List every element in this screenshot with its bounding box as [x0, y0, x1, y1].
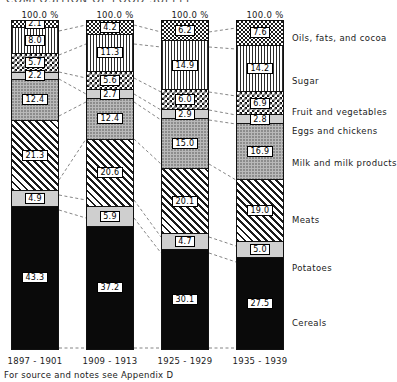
segment-value-label: 7.6 — [250, 27, 270, 38]
legend-label-milk-products: Milk and milk products — [292, 158, 397, 168]
bar-segment: 20.1 — [162, 169, 208, 235]
segment-value-label: 20.1 — [172, 196, 197, 207]
bar-segment: 2.2 — [12, 73, 58, 80]
segment-value-label: 4.9 — [25, 193, 45, 204]
chart-title: COMPOSITION OF FOOD SUPPLY — [6, 0, 192, 2]
segment-value-label: 2.7 — [100, 89, 120, 100]
bar-segment: 37.2 — [87, 227, 133, 349]
segment-value-label: 14.9 — [172, 60, 197, 71]
bar-segment: 43.3 — [12, 207, 58, 349]
bar-segment: 12.4 — [12, 80, 58, 121]
bar-segment: 30.1 — [162, 250, 208, 349]
legend-label-sugar: Sugar — [292, 76, 319, 86]
bar-segment: 7.6 — [237, 21, 283, 46]
bar-column-1909-1913: 4.211.35.62.712.420.65.937.2 — [86, 20, 134, 350]
segment-value-label: 8.0 — [25, 35, 45, 46]
bar-segment: 14.2 — [237, 46, 283, 93]
segment-value-label: 6.0 — [175, 94, 195, 105]
bar-segment: 2.7 — [87, 90, 133, 99]
bar-segment: 2.1 — [12, 21, 58, 28]
xtick-1897-1901: 1897 - 1901 — [0, 356, 71, 366]
bar-column-1925-1929: 6.214.96.02.915.020.14.730.1 — [161, 20, 209, 350]
segment-value-label: 19.0 — [247, 205, 272, 216]
bar-segment: 8.0 — [12, 28, 58, 54]
legend-label-potatoes: Potatoes — [292, 263, 332, 273]
bar-segment: 14.9 — [162, 41, 208, 90]
segment-value-label: 27.5 — [247, 298, 272, 309]
column-total-1: 100.0 % — [4, 10, 76, 20]
segment-value-label: 12.4 — [22, 94, 47, 105]
segment-value-label: 2.8 — [250, 114, 270, 125]
xtick-1935-1939: 1935 - 1939 — [224, 356, 296, 366]
bar-segment: 5.9 — [87, 207, 133, 226]
segment-value-label: 11.3 — [97, 47, 122, 58]
bar-segment: 2.8 — [237, 115, 283, 124]
column-total-2: 100.0 % — [79, 10, 151, 20]
bar-segment: 15.0 — [162, 119, 208, 168]
bar-segment: 5.6 — [87, 72, 133, 90]
bar-segment: 20.6 — [87, 140, 133, 208]
legend-label-eggs-chickens: Eggs and chickens — [292, 126, 378, 136]
segment-value-label: 5.9 — [100, 211, 120, 222]
xtick-1909-1913: 1909 - 1913 — [74, 356, 146, 366]
bar-segment: 16.9 — [237, 124, 283, 179]
segment-value-label: 15.0 — [172, 138, 197, 149]
segment-value-label: 2.9 — [175, 109, 195, 120]
segment-value-label: 21.3 — [22, 150, 47, 161]
bar-segment: 2.9 — [162, 110, 208, 120]
segment-value-label: 30.1 — [172, 294, 197, 305]
bar-segment: 4.7 — [162, 234, 208, 249]
legend-label-oils-fats-cocoa: Oils, fats, and cocoa — [292, 33, 387, 43]
bar-segment: 21.3 — [12, 121, 58, 191]
segment-value-label: 2.1 — [25, 20, 45, 29]
bar-segment: 6.2 — [162, 21, 208, 41]
xtick-1925-1929: 1925 - 1929 — [149, 356, 221, 366]
footnote: For source and notes see Appendix D — [4, 370, 173, 380]
bar-segment: 11.3 — [87, 35, 133, 72]
bar-segment: 6.0 — [162, 90, 208, 110]
bar-segment: 6.9 — [237, 92, 283, 115]
segment-value-label: 37.2 — [97, 282, 122, 293]
segment-value-label: 5.6 — [100, 75, 120, 86]
segment-value-label: 43.3 — [22, 272, 47, 283]
segment-value-label: 6.9 — [250, 98, 270, 109]
legend-label-fruit-vegetables: Fruit and vegetables — [292, 107, 387, 117]
bar-segment: 12.4 — [87, 99, 133, 140]
bar-segment: 19.0 — [237, 180, 283, 242]
segment-value-label: 2.2 — [25, 70, 45, 81]
bar-column-1897-1901: 2.18.05.72.212.421.34.943.3 — [11, 20, 59, 350]
segment-value-label: 20.6 — [97, 167, 122, 178]
segment-value-label: 4.7 — [175, 236, 195, 247]
segment-value-label: 14.2 — [247, 63, 272, 74]
column-total-4: 100.0 % — [229, 10, 301, 20]
segment-value-label: 6.2 — [175, 25, 195, 36]
bar-segment: 4.2 — [87, 21, 133, 35]
legend-label-cereals: Cereals — [292, 318, 327, 328]
segment-value-label: 12.4 — [97, 113, 122, 124]
bar-column-1935-1939: 7.614.26.92.816.919.05.027.5 — [236, 20, 284, 350]
bar-segment: 4.9 — [12, 191, 58, 207]
bar-segment: 27.5 — [237, 258, 283, 348]
segment-value-label: 5.7 — [25, 57, 45, 68]
segment-value-label: 16.9 — [247, 146, 272, 157]
segment-value-label: 5.0 — [250, 244, 270, 255]
column-total-3: 100.0 % — [154, 10, 226, 20]
segment-value-label: 4.2 — [100, 22, 120, 33]
bar-segment: 5.0 — [237, 242, 283, 258]
legend-label-meats: Meats — [292, 215, 320, 225]
